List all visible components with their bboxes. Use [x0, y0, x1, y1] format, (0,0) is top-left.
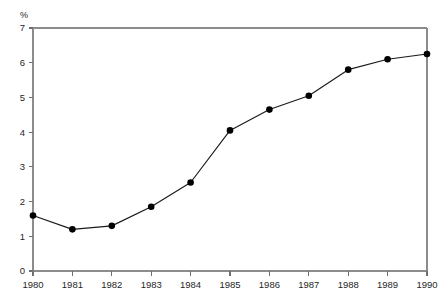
data-point-1988: [345, 66, 352, 73]
line-chart: 01234567 1980198119821983198419851986198…: [0, 0, 443, 304]
y-tick-label-2: 2: [20, 196, 25, 207]
x-tick-label-1984: 1984: [180, 279, 201, 290]
x-tick-label-1981: 1981: [62, 279, 83, 290]
data-point-1982: [109, 223, 116, 230]
data-point-1980: [30, 212, 37, 219]
x-tick-label-1988: 1988: [338, 279, 359, 290]
chart-background: [0, 0, 443, 304]
x-tick-label-1990: 1990: [416, 279, 437, 290]
data-point-1981: [69, 226, 76, 233]
x-tick-label-1982: 1982: [101, 279, 122, 290]
data-point-1990: [424, 51, 431, 58]
data-point-1987: [306, 92, 313, 99]
y-tick-label-3: 3: [20, 161, 25, 172]
data-point-1985: [227, 127, 234, 134]
y-axis-unit-label: %: [20, 10, 28, 20]
x-tick-label-1980: 1980: [22, 279, 43, 290]
x-tick-label-1985: 1985: [219, 279, 240, 290]
y-tick-label-0: 0: [20, 265, 25, 276]
y-tick-label-7: 7: [20, 22, 25, 33]
data-point-1986: [266, 106, 273, 113]
y-tick-label-1: 1: [20, 231, 25, 242]
x-tick-label-1987: 1987: [298, 279, 319, 290]
x-tick-label-1986: 1986: [259, 279, 280, 290]
data-point-1989: [384, 56, 391, 63]
x-tick-label-1989: 1989: [377, 279, 398, 290]
chart-canvas: 01234567 1980198119821983198419851986198…: [0, 0, 443, 304]
y-tick-label-5: 5: [20, 92, 25, 103]
y-tick-label-6: 6: [20, 57, 25, 68]
data-point-1984: [187, 179, 194, 186]
y-tick-label-4: 4: [20, 127, 25, 138]
x-tick-label-1983: 1983: [141, 279, 162, 290]
data-point-1983: [148, 203, 155, 210]
